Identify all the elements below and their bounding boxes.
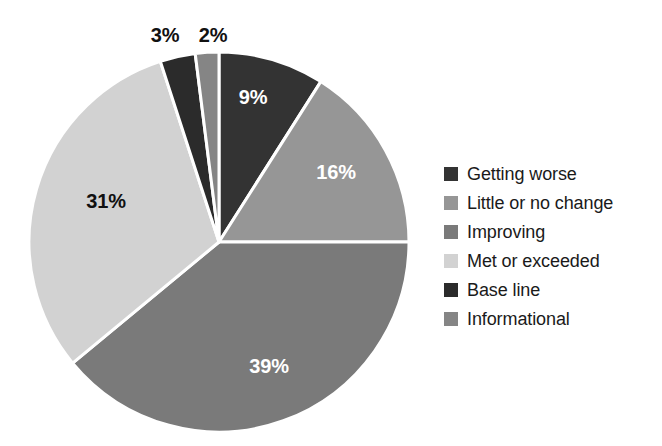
legend-item-label: Improving bbox=[467, 223, 545, 241]
legend-item-label: Base line bbox=[467, 281, 540, 299]
legend-item-label: Getting worse bbox=[467, 165, 577, 183]
pie-slice-group bbox=[29, 52, 409, 432]
legend-swatch-icon bbox=[444, 283, 458, 297]
slice-value-label-improving: 39% bbox=[249, 356, 288, 376]
legend-item-little-or-no-change[interactable]: Little or no change bbox=[444, 188, 656, 217]
slice-value-label-base-line: 3% bbox=[151, 25, 180, 45]
legend-item-met-or-exceeded[interactable]: Met or exceeded bbox=[444, 246, 656, 275]
legend-item-label: Met or exceeded bbox=[467, 252, 600, 270]
legend-item-base-line[interactable]: Base line bbox=[444, 275, 656, 304]
legend-item-informational[interactable]: Informational bbox=[444, 304, 656, 333]
slice-value-label-little-or-no-change: 16% bbox=[316, 162, 355, 182]
legend-item-improving[interactable]: Improving bbox=[444, 217, 656, 246]
legend-swatch-icon bbox=[444, 312, 458, 326]
chart-legend: Getting worseLittle or no changeImprovin… bbox=[444, 159, 656, 333]
legend-swatch-icon bbox=[444, 225, 458, 239]
legend-item-getting-worse[interactable]: Getting worse bbox=[444, 159, 656, 188]
legend-item-label: Informational bbox=[467, 310, 570, 328]
legend-item-label: Little or no change bbox=[467, 194, 613, 212]
slice-value-label-informational: 2% bbox=[199, 25, 228, 45]
legend-swatch-icon bbox=[444, 167, 458, 181]
legend-swatch-icon bbox=[444, 196, 458, 210]
slice-value-label-getting-worse: 9% bbox=[239, 87, 268, 107]
legend-swatch-icon bbox=[444, 254, 458, 268]
slice-value-label-met-or-exceeded: 31% bbox=[86, 191, 125, 211]
pie-chart-figure: 9% 16% 39% 31% 3% 2% Getting worseLittle… bbox=[0, 0, 662, 446]
